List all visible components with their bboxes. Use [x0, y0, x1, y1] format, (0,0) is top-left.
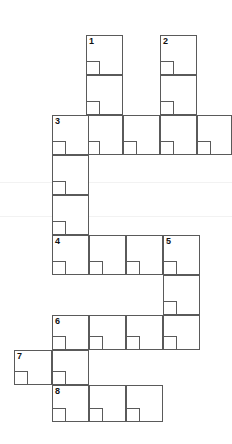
cell-r10-a3[interactable] — [126, 385, 163, 422]
cell-answer-box — [87, 61, 100, 74]
cell-answer-box — [161, 141, 174, 154]
cell-r3-c2[interactable] — [160, 115, 197, 155]
cell-r3-a2[interactable] — [123, 115, 160, 155]
cell-r6-a3[interactable] — [126, 235, 163, 275]
cell-r1-c2[interactable]: 2 — [160, 35, 197, 75]
cell-r3-c1[interactable] — [86, 115, 123, 155]
cell-answer-box — [90, 261, 103, 274]
cell-answer-box — [164, 301, 177, 314]
cell-r6-a2[interactable] — [89, 235, 126, 275]
cell-answer-box — [90, 408, 103, 421]
cell-r10-a2[interactable] — [89, 385, 126, 422]
faint-guide-top — [0, 182, 232, 183]
cell-answer-box — [53, 141, 66, 154]
cell-answer-box — [164, 261, 177, 274]
cell-r2-c2[interactable] — [160, 75, 197, 115]
cell-answer-box — [90, 336, 103, 349]
cell-answer-box — [161, 101, 174, 114]
cell-answer-box — [124, 141, 137, 154]
clue-number-7: 7 — [17, 351, 22, 362]
cell-r1-c1[interactable]: 1 — [86, 35, 123, 75]
clue-number-1: 1 — [89, 36, 94, 47]
cell-r7-c5[interactable] — [163, 275, 200, 315]
cell-answer-box — [198, 141, 211, 154]
clue-number-3: 3 — [55, 116, 60, 127]
clue-number-2: 2 — [163, 36, 168, 47]
cell-r8-c5[interactable] — [163, 315, 200, 350]
cell-r9-a2[interactable] — [52, 350, 89, 385]
cell-r6-a4[interactable]: 5 — [163, 235, 200, 275]
cell-r8-a1[interactable]: 6 — [52, 315, 89, 350]
cell-answer-box — [53, 181, 66, 194]
cell-answer-box — [53, 336, 66, 349]
cell-r6-a1[interactable]: 4 — [52, 235, 89, 275]
cell-r3-a3[interactable] — [197, 115, 232, 155]
cell-r2-c1[interactable] — [86, 75, 123, 115]
cell-answer-box — [127, 336, 140, 349]
cell-r5-d1[interactable] — [52, 195, 89, 235]
cell-r8-a2[interactable] — [89, 315, 126, 350]
cell-answer-box — [15, 371, 28, 384]
cell-answer-box — [53, 261, 66, 274]
cell-r4-d1[interactable] — [52, 155, 89, 195]
clue-number-5: 5 — [166, 236, 171, 247]
cell-r8-a3[interactable] — [126, 315, 163, 350]
cell-r10-a1[interactable]: 8 — [52, 385, 89, 422]
cell-r3-a1[interactable]: 3 — [52, 115, 89, 155]
clue-number-8: 8 — [55, 386, 60, 397]
cell-answer-box — [127, 261, 140, 274]
cell-answer-box — [164, 336, 177, 349]
clue-number-4: 4 — [55, 236, 60, 247]
cell-answer-box — [87, 101, 100, 114]
crossword-grid: 12345678 — [0, 0, 232, 444]
cell-r9-a1[interactable]: 7 — [14, 350, 52, 385]
cell-answer-box — [53, 221, 66, 234]
faint-guide-bottom — [0, 216, 232, 217]
cell-answer-box — [53, 371, 66, 384]
cell-answer-box — [127, 408, 140, 421]
cell-answer-box — [161, 61, 174, 74]
cell-answer-box — [53, 408, 66, 421]
clue-number-6: 6 — [55, 316, 60, 327]
